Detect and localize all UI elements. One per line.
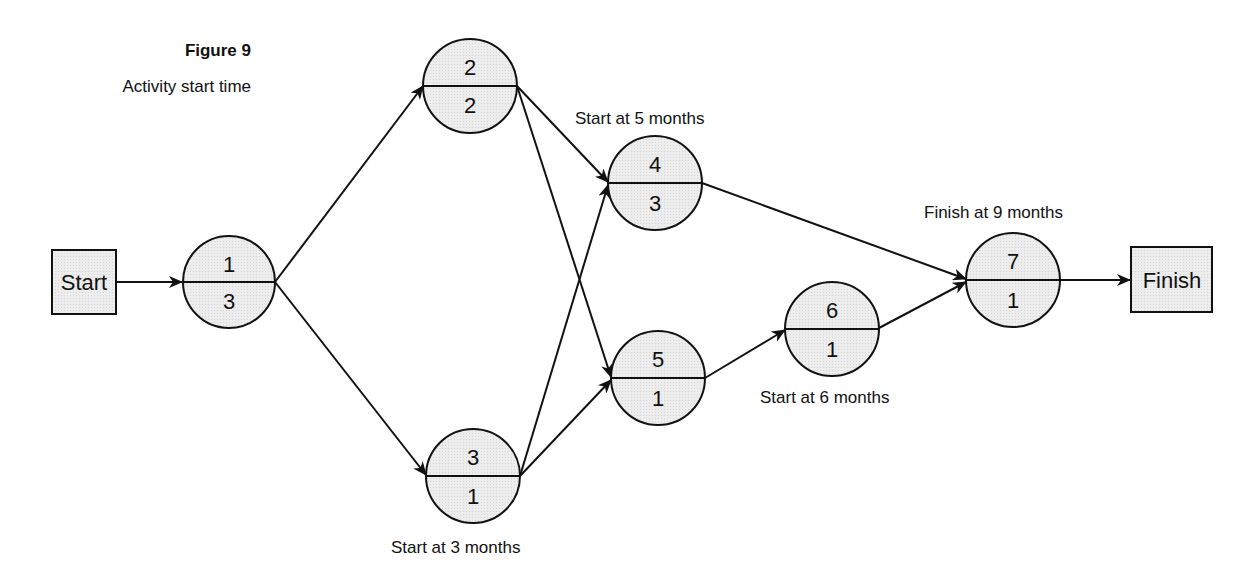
activity-node-4: 4 3 [608, 136, 702, 230]
node-activity-number: 1 [223, 252, 235, 277]
activity-node-7: 7 1 [966, 233, 1060, 327]
annotation-node-3: Start at 3 months [391, 538, 520, 557]
annotation-node-6: Start at 6 months [760, 388, 889, 407]
node-activity-number: 7 [1007, 249, 1019, 274]
edge-5-6 [705, 330, 785, 378]
activity-node-1: 1 3 [183, 236, 275, 328]
edge-4-7 [702, 183, 966, 279]
figure-subtitle: Activity start time [123, 77, 251, 96]
node-duration: 1 [652, 386, 664, 411]
edge-1-3 [275, 282, 426, 475]
node-duration: 1 [467, 484, 479, 509]
node-duration: 1 [1007, 288, 1019, 313]
node-activity-number: 3 [467, 445, 479, 470]
network-diagram: Figure 9 Activity start time Start Finis… [0, 0, 1251, 580]
figure-title: Figure 9 [185, 41, 251, 60]
edge-1-2 [275, 86, 423, 282]
start-terminal: Start [52, 250, 116, 314]
finish-terminal: Finish [1131, 247, 1212, 312]
activity-node-6: 6 1 [785, 282, 879, 376]
node-duration: 3 [649, 191, 661, 216]
node-duration: 3 [223, 289, 235, 314]
annotation-node-7: Finish at 9 months [924, 203, 1063, 222]
node-activity-number: 4 [649, 152, 661, 177]
node-duration: 1 [826, 337, 838, 362]
activity-node-3: 3 1 [426, 429, 520, 523]
node-activity-number: 5 [652, 347, 664, 372]
node-duration: 2 [464, 93, 476, 118]
finish-label: Finish [1143, 268, 1202, 293]
node-activity-number: 6 [826, 298, 838, 323]
annotation-node-4: Start at 5 months [575, 109, 704, 128]
node-activity-number: 2 [464, 55, 476, 80]
edge-6-7 [879, 282, 966, 328]
activity-node-2: 2 2 [423, 39, 517, 133]
start-label: Start [61, 270, 107, 295]
activity-node-5: 5 1 [611, 331, 705, 425]
edge-2-4 [517, 86, 608, 182]
